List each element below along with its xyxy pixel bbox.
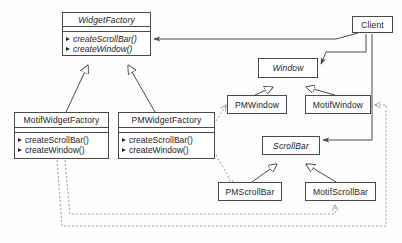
class-box-scroll-bar[interactable]: ScrollBar bbox=[262, 136, 320, 155]
operation-row: createWindow() bbox=[66, 44, 150, 54]
class-name-widget-factory: WidgetFactory bbox=[63, 13, 150, 27]
class-box-client[interactable]: Client bbox=[352, 16, 393, 33]
line-motif-window-to-window bbox=[306, 87, 335, 95]
operation-row: createScrollBar() bbox=[66, 34, 150, 44]
class-name-pm-scroll-bar: PMScrollBar bbox=[219, 187, 281, 197]
line-client-to-window bbox=[321, 34, 366, 64]
operation-row: createWindow() bbox=[18, 145, 108, 155]
class-name-window: Window bbox=[259, 63, 317, 73]
operation-row: createScrollBar() bbox=[18, 135, 108, 145]
line-motif-factory-to-widget-factory bbox=[66, 65, 88, 112]
class-name-client: Client bbox=[353, 20, 392, 30]
class-box-motif-window[interactable]: MotifWindow bbox=[305, 95, 371, 114]
class-box-pm-scroll-bar[interactable]: PMScrollBar bbox=[218, 182, 282, 201]
class-name-pm-widget-factory: PMWidgetFactory bbox=[119, 113, 214, 128]
operation-label: createScrollBar() bbox=[73, 34, 137, 44]
operation-compartment-pm-widget-factory: createScrollBar() createWindow() bbox=[119, 132, 214, 156]
operation-label: createWindow() bbox=[25, 145, 85, 155]
uml-class-diagram: WidgetFactory createScrollBar() createWi… bbox=[0, 0, 402, 243]
line-motif-factory-to-motif-scrollbar bbox=[65, 160, 335, 214]
class-box-motif-widget-factory[interactable]: MotifWidgetFactory createScrollBar() cre… bbox=[14, 112, 109, 159]
operation-label: createScrollBar() bbox=[129, 135, 193, 145]
class-name-motif-widget-factory: MotifWidgetFactory bbox=[15, 113, 108, 128]
operation-bullet-icon bbox=[18, 138, 22, 142]
class-box-pm-widget-factory[interactable]: PMWidgetFactory createScrollBar() create… bbox=[118, 112, 215, 159]
class-name-motif-window: MotifWindow bbox=[306, 100, 370, 110]
operation-label: createWindow() bbox=[129, 145, 189, 155]
class-box-motif-scroll-bar[interactable]: MotifScrollBar bbox=[305, 182, 376, 201]
operation-label: createWindow() bbox=[73, 44, 132, 54]
line-pm-factory-to-pm-window bbox=[216, 105, 226, 121]
class-name-scroll-bar: ScrollBar bbox=[263, 141, 319, 151]
operation-bullet-icon bbox=[122, 148, 126, 152]
operation-bullet-icon bbox=[122, 138, 126, 142]
operation-bullet-icon bbox=[66, 47, 70, 51]
class-box-pm-window[interactable]: PMWindow bbox=[227, 95, 287, 114]
class-box-widget-factory[interactable]: WidgetFactory createScrollBar() createWi… bbox=[62, 12, 151, 56]
operation-bullet-icon bbox=[18, 148, 22, 152]
operation-label: createScrollBar() bbox=[25, 135, 89, 145]
line-client-to-scrollbar bbox=[323, 34, 372, 140]
line-pm-scrollbar-to-scrollbar bbox=[252, 164, 277, 182]
line-pm-window-to-window bbox=[255, 87, 273, 95]
class-name-motif-scroll-bar: MotifScrollBar bbox=[306, 187, 375, 197]
line-client-to-widget-factory bbox=[154, 33, 358, 39]
operation-row: createWindow() bbox=[122, 145, 214, 155]
operation-compartment-widget-factory: createScrollBar() createWindow() bbox=[63, 31, 150, 55]
operation-row: createScrollBar() bbox=[122, 135, 214, 145]
class-box-window[interactable]: Window bbox=[258, 58, 318, 78]
operation-compartment-motif-widget-factory: createScrollBar() createWindow() bbox=[15, 132, 108, 156]
line-pm-factory-to-widget-factory bbox=[128, 65, 155, 112]
class-name-pm-window: PMWindow bbox=[228, 100, 286, 110]
line-motif-scrollbar-to-scrollbar bbox=[306, 164, 336, 182]
operation-bullet-icon bbox=[66, 37, 70, 41]
